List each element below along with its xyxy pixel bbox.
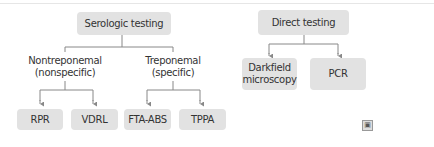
- node-label: RPR: [30, 114, 49, 126]
- node-label: Direct testing: [272, 17, 336, 29]
- node-label: Darkfield: [248, 62, 291, 74]
- node-darkfield-microscopy: Darkfield microscopy: [242, 58, 297, 90]
- node-label: Nontreponemal: [20, 55, 110, 67]
- node-sublabel: (nonspecific): [20, 67, 110, 79]
- node-label: Treponemal: [130, 55, 216, 67]
- node-rpr: RPR: [17, 109, 63, 130]
- node-sublabel: (specific): [130, 67, 216, 79]
- connector-serologic: [65, 35, 173, 52]
- node-label: FTA-ABS: [128, 114, 167, 126]
- node-label: Serologic testing: [85, 18, 164, 30]
- node-label: VDRL: [82, 114, 108, 126]
- node-serologic-testing: Serologic testing: [77, 12, 171, 35]
- connector-direct: [269, 35, 338, 54]
- node-vdrl: VDRL: [71, 109, 118, 130]
- connector-treponemal: [147, 81, 200, 101]
- node-sublabel: microscopy: [242, 74, 296, 86]
- node-direct-testing: Direct testing: [258, 10, 349, 35]
- image-icon[interactable]: ▣: [362, 120, 373, 131]
- node-pcr: PCR: [310, 58, 366, 90]
- node-tppa: TPPA: [179, 109, 226, 130]
- node-nontreponemal: Nontreponemal (nonspecific): [20, 55, 110, 79]
- node-label: TPPA: [191, 114, 214, 126]
- node-fta-abs: FTA-ABS: [124, 109, 171, 130]
- connector-nontreponemal: [40, 81, 93, 101]
- node-treponemal: Treponemal (specific): [130, 55, 216, 79]
- node-label: PCR: [328, 68, 347, 80]
